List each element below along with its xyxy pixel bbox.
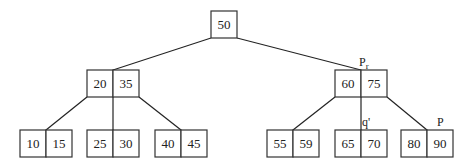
tree-node-n1: 2035 (87, 70, 139, 97)
tree-node-l6: 8090P (401, 115, 453, 157)
tree-edge-n1-l1 (46, 97, 87, 130)
key-text: 15 (53, 136, 66, 151)
tree-node-l4: 5559 (267, 130, 319, 157)
node-pointer-label: Pr (359, 55, 369, 71)
tree-edge-n2-l6 (387, 97, 427, 130)
node-pointer-label: P (437, 115, 444, 129)
key-text: 60 (342, 76, 355, 91)
nodes-group: 5020356075Pr10152530404555596570q'8090P (20, 11, 453, 157)
key-text: 20 (94, 76, 107, 91)
key-text: 80 (408, 136, 421, 151)
key-text: 90 (434, 136, 447, 151)
tree-node-n2: 6075Pr (335, 55, 387, 97)
key-text: 45 (188, 136, 201, 151)
key-text: 40 (162, 136, 175, 151)
key-text: 25 (94, 136, 107, 151)
key-text: 50 (218, 17, 231, 32)
key-text: 75 (368, 76, 381, 91)
key-text: 65 (342, 136, 355, 151)
tree-edge-root-n2 (237, 38, 361, 70)
key-text: 10 (27, 136, 40, 151)
key-text: 59 (300, 136, 313, 151)
tree-edge-n2-l4 (293, 97, 335, 130)
tree-edge-n1-l3 (139, 97, 181, 130)
b-tree-diagram: 5020356075Pr10152530404555596570q'8090P (0, 0, 469, 168)
key-text: 30 (120, 136, 133, 151)
tree-node-root: 50 (211, 11, 237, 38)
tree-node-l2: 2530 (87, 130, 139, 157)
tree-node-l1: 1015 (20, 130, 72, 157)
node-pointer-label: q' (362, 115, 370, 129)
key-text: 35 (120, 76, 133, 91)
key-text: 70 (368, 136, 381, 151)
tree-edge-root-n1 (113, 38, 211, 70)
tree-node-l3: 4045 (155, 130, 207, 157)
key-text: 55 (274, 136, 287, 151)
